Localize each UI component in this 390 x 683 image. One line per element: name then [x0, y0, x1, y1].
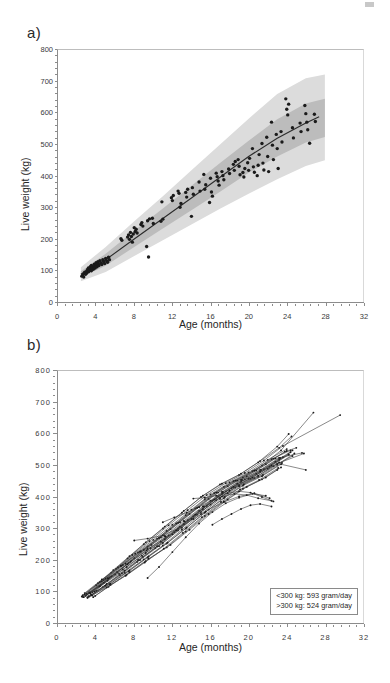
y-tick-label: 500 [35, 460, 51, 469]
trajectory-marker [277, 467, 279, 469]
trajectory-marker [259, 460, 261, 462]
data-point [260, 142, 263, 145]
trajectory-marker [231, 513, 233, 515]
trajectory-marker [120, 565, 122, 567]
panel-b-x-axis-title: Age (months) [57, 641, 364, 653]
data-point [279, 130, 282, 133]
trajectory-marker [202, 495, 204, 497]
data-point [178, 205, 181, 208]
x-axis-minor-tick [111, 625, 112, 627]
x-axis-minor-tick [95, 625, 96, 627]
trajectory-marker [158, 537, 160, 539]
x-axis-minor-tick [65, 304, 66, 306]
x-axis-minor-tick [326, 304, 327, 306]
trajectory-marker [164, 526, 166, 528]
x-axis-minor-tick [111, 304, 112, 306]
x-axis-minor-tick [303, 625, 304, 627]
y-axis-minor-tick [53, 522, 55, 523]
x-axis-minor-tick [356, 625, 357, 627]
x-axis-minor-tick [118, 625, 119, 627]
x-axis-minor-tick [257, 304, 258, 306]
y-axis-minor-tick [53, 395, 55, 396]
y-tick-label: 0 [46, 619, 51, 628]
animal-trajectory [95, 470, 277, 596]
x-axis-minor-tick [241, 625, 242, 627]
trajectory-lines [81, 412, 341, 599]
trajectory-marker [203, 506, 205, 508]
trajectory-marker [101, 579, 103, 581]
x-axis-minor-tick [272, 304, 273, 306]
y-axis-tick [53, 402, 57, 403]
trajectory-marker [201, 516, 203, 518]
data-point [204, 183, 207, 186]
data-point [228, 172, 231, 175]
data-point [233, 169, 236, 172]
trajectory-marker [253, 470, 255, 472]
x-axis-minor-tick [72, 304, 73, 306]
trajectory-marker [133, 540, 135, 542]
trajectory-marker [181, 529, 183, 531]
data-point [211, 194, 214, 197]
x-axis-minor-tick [218, 625, 219, 627]
x-axis-minor-tick [349, 304, 350, 306]
trajectory-marker [240, 508, 242, 510]
trajectory-marker [265, 495, 267, 497]
trajectory-marker [165, 536, 167, 538]
x-axis-minor-tick [333, 304, 334, 306]
panel-a-label: a) [27, 24, 41, 41]
trajectory-marker [82, 596, 84, 598]
trajectory-marker [129, 569, 131, 571]
data-point [191, 186, 194, 189]
data-point [248, 157, 251, 160]
trajectory-marker [211, 524, 213, 526]
trajectory-marker [219, 498, 221, 500]
x-axis-minor-tick [349, 625, 350, 627]
y-axis-minor-tick [53, 484, 55, 485]
y-axis-tick [53, 560, 57, 561]
panel-a: a) Live weight (kg) 01002003004005006007… [0, 18, 390, 330]
trajectory-marker [225, 502, 227, 504]
data-point [291, 126, 294, 129]
data-point [270, 120, 273, 123]
trajectory-marker [149, 540, 151, 542]
y-tick-label: 700 [35, 397, 51, 406]
trajectory-marker [286, 448, 288, 450]
trajectory-marker [286, 450, 288, 452]
x-axis-minor-tick [57, 625, 58, 627]
y-axis-tick [53, 465, 57, 466]
x-axis-minor-tick [95, 304, 96, 306]
y-axis-minor-tick [53, 604, 55, 605]
x-axis-minor-tick [164, 304, 165, 306]
data-point [210, 190, 213, 193]
trajectory-marker [89, 591, 91, 593]
trajectory-marker [204, 497, 206, 499]
trajectory-marker [186, 512, 188, 514]
y-axis-minor-tick [53, 427, 55, 428]
x-axis-minor-tick [241, 304, 242, 306]
trajectory-marker [280, 466, 282, 468]
trajectory-marker [210, 504, 212, 506]
data-point [129, 231, 132, 234]
x-axis-minor-tick [333, 625, 334, 627]
x-axis-minor-tick [249, 304, 250, 306]
trajectory-marker [292, 449, 294, 451]
trajectory-marker [196, 507, 198, 509]
trajectory-marker [250, 492, 252, 494]
x-axis-minor-tick [211, 625, 212, 627]
data-point [272, 158, 275, 161]
x-axis-minor-tick [134, 304, 135, 306]
trajectory-marker [192, 498, 194, 500]
y-tick-label: 200 [40, 234, 53, 243]
x-axis-minor-tick [103, 304, 104, 306]
y-axis-tick [53, 497, 57, 498]
trajectory-marker [92, 596, 94, 598]
data-point [134, 228, 137, 231]
y-axis-minor-tick [53, 547, 55, 548]
trajectory-marker [225, 482, 227, 484]
y-tick-label: 400 [40, 171, 53, 180]
y-axis-minor-tick [53, 414, 55, 415]
data-point [246, 161, 249, 164]
data-point [271, 143, 274, 146]
x-axis-minor-tick [318, 625, 319, 627]
data-point [241, 171, 244, 174]
